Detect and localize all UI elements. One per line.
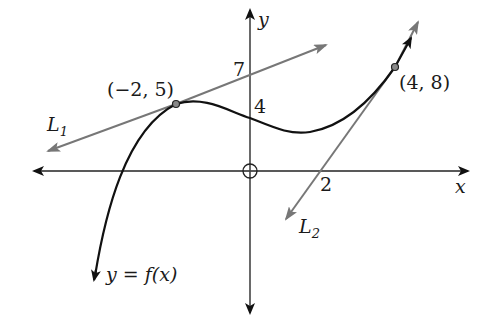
point-label-neg2-5: (−2, 5) bbox=[107, 78, 174, 100]
tick-label-y-4: 4 bbox=[254, 95, 266, 117]
graph-figure: y x 7 4 2 (−2, 5) (4, 8) L1 L2 y = f(x) bbox=[0, 0, 492, 323]
point-label-4-8: (4, 8) bbox=[399, 71, 450, 93]
tangent-line-l1 bbox=[176, 45, 326, 104]
line-label-l1: L1 bbox=[46, 113, 68, 139]
point-tangent-l1 bbox=[173, 101, 180, 108]
curve-label: y = f(x) bbox=[105, 263, 177, 285]
line-label-l2: L2 bbox=[298, 215, 320, 241]
point-tangent-l2 bbox=[392, 64, 399, 71]
y-axis-label: y bbox=[257, 8, 269, 30]
x-axis-label: x bbox=[455, 175, 466, 197]
tick-label-x-2: 2 bbox=[320, 173, 332, 195]
tick-label-y-7: 7 bbox=[233, 58, 245, 80]
